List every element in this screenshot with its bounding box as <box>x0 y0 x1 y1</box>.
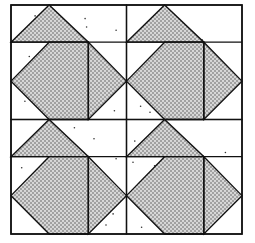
background-dot <box>115 29 117 31</box>
top-triangle-patch <box>127 120 204 157</box>
diamond-patch <box>11 157 88 234</box>
top-triangle-patch <box>11 120 88 157</box>
background-dot <box>114 110 116 112</box>
background-dot <box>93 138 95 140</box>
background-dot <box>132 162 134 164</box>
diamond-patch <box>11 42 88 119</box>
right-triangle-patch <box>204 157 242 234</box>
background-dot <box>149 112 151 114</box>
diamond-patch <box>127 42 204 119</box>
background-dot <box>34 15 36 17</box>
background-dot <box>29 56 31 58</box>
background-dot <box>74 127 76 129</box>
background-dot <box>86 26 88 28</box>
background-dot <box>84 18 86 20</box>
right-triangle-patch <box>88 42 126 119</box>
background-dot <box>134 140 136 142</box>
right-triangle-patch <box>204 42 242 119</box>
right-triangle-patch <box>88 157 126 234</box>
quilt-diagram <box>0 0 255 243</box>
background-dot <box>140 105 142 107</box>
background-dot <box>105 224 107 226</box>
background-dot <box>112 213 114 215</box>
background-dot <box>141 227 143 229</box>
background-dot <box>21 167 23 169</box>
top-triangle-patch <box>127 5 204 42</box>
background-dot <box>115 158 117 160</box>
background-dot <box>225 152 227 154</box>
background-dot <box>24 101 26 103</box>
diamond-patch <box>127 157 204 234</box>
top-triangle-patch <box>11 5 88 42</box>
